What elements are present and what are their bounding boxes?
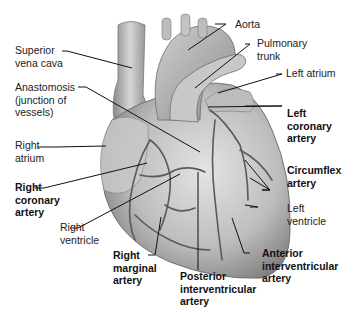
label-left-ventricle: Left ventricle (287, 202, 326, 227)
label-right-ventricle: Right ventricle (60, 221, 99, 246)
label-left-atrium: Left atrium (286, 67, 336, 80)
label-aorta: Aorta (235, 18, 260, 31)
label-pulmonary-trunk: Pulmonary trunk (257, 37, 307, 62)
label-right-atrium: Right atrium (15, 139, 44, 164)
label-posterior-interventricular-artery: Posterior interventricular artery (180, 270, 256, 308)
heart-diagram: Aorta Superior vena cava Pulmonary trunk… (0, 0, 355, 312)
label-superior-vena-cava: Superior vena cava (15, 44, 63, 69)
label-circumflex-artery: Circumflex artery (287, 164, 341, 189)
label-left-coronary-artery: Left coronary artery (287, 107, 332, 145)
label-right-coronary-artery: Right coronary artery (15, 181, 60, 219)
label-right-marginal-artery: Right marginal artery (113, 249, 157, 287)
label-anastomosis: Anastomosis (junction of vessels) (15, 81, 75, 119)
label-anterior-interventricular-artery: Anterior interventricular artery (262, 247, 338, 285)
